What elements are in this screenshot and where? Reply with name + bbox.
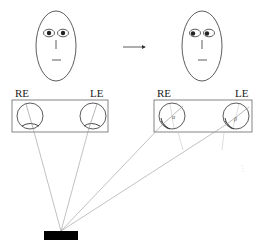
angle-alpha: α xyxy=(172,114,176,120)
face-before xyxy=(36,11,76,81)
eyeball-le-after: β xyxy=(223,103,249,129)
fixation-target xyxy=(44,231,78,240)
angle-beta: β xyxy=(233,116,237,122)
label-re-after: RE xyxy=(157,87,171,99)
label-re-before: RE xyxy=(15,87,29,99)
eyeball-le-before xyxy=(80,103,106,129)
face-before-left-eye xyxy=(58,29,69,37)
label-le-after: LE xyxy=(235,87,249,99)
binocular-fixation-diagram: RE LE RE LE α xyxy=(0,0,261,247)
light-rays xyxy=(33,124,227,231)
face-before-right-eye xyxy=(44,29,55,37)
label-le-before: LE xyxy=(90,87,104,99)
eyes-box-before: RE LE xyxy=(12,87,108,132)
eyeball-re-after: α xyxy=(159,103,185,129)
face-after xyxy=(182,11,222,81)
face-after-right-eye xyxy=(190,29,201,37)
projection-lines xyxy=(178,132,244,172)
eyeball-re-before xyxy=(17,103,43,129)
eyes-box-after: RE LE α β xyxy=(154,87,252,132)
face-after-left-eye xyxy=(204,29,215,37)
